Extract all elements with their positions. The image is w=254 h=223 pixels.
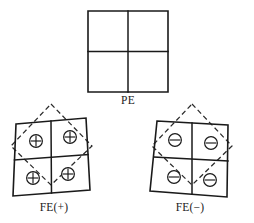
fe-plus-charge-bottom-right (62, 168, 75, 181)
fe-minus-charge-bottom-left (168, 171, 181, 184)
pe-label: PE (121, 94, 135, 106)
panel-pe: PE (88, 11, 168, 106)
panel-fe-plus: FE(+) (11, 104, 92, 214)
fe-plus-charge-top-right (64, 131, 77, 144)
fe-plus-label: FE(+) (40, 201, 69, 214)
fe-minus-label: FE(−) (176, 201, 205, 214)
panel-fe-minus: FE(−) (150, 104, 232, 214)
fe-plus-charge-bottom-left (27, 172, 40, 185)
fe-plus-charge-top-left (30, 135, 43, 148)
fe-minus-charge-top-left (169, 134, 182, 147)
crystal-phase-diagram: PE FE(+) (0, 0, 254, 223)
fe-minus-charge-top-right (205, 137, 218, 150)
fe-minus-charge-bottom-right (204, 174, 217, 187)
